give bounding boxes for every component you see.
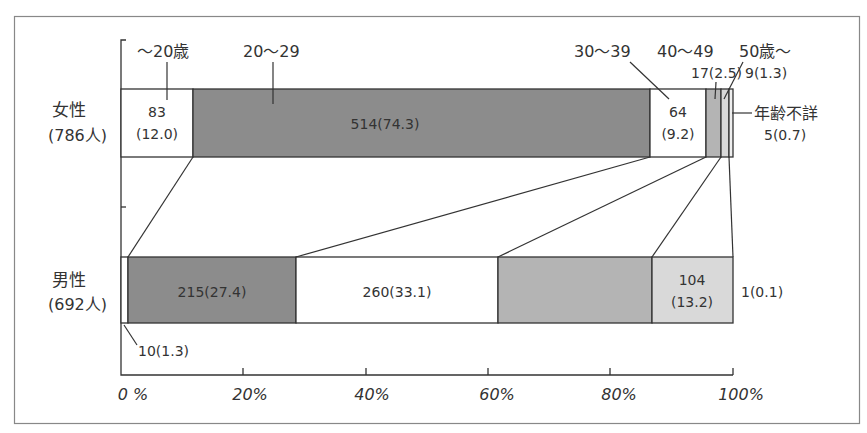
female-40s-value: 17(2.5) <box>691 65 742 81</box>
female-label: 女性 <box>52 100 86 120</box>
seg-label-50plus: 50歳～ <box>739 42 791 61</box>
x-tick-40: 40% <box>354 385 390 404</box>
male-50plus-pct: (13.2) <box>671 294 713 310</box>
female-unknown-value: 5(0.7) <box>764 127 806 143</box>
x-tick-20: 20% <box>232 385 268 404</box>
seg-label-20s: 20～29 <box>243 42 300 61</box>
female-seg-unknown <box>729 89 733 157</box>
female-bar <box>121 89 733 157</box>
male-seg-50plus <box>652 257 733 323</box>
male-seg-under20 <box>121 257 128 323</box>
x-tick-100: 100% <box>718 385 764 404</box>
female-seg-40s <box>706 89 721 157</box>
male-total: (692人) <box>48 295 107 314</box>
seg-label-30s: 30～39 <box>574 42 631 61</box>
x-tick-80: 80% <box>601 385 637 404</box>
male-seg-40s <box>498 257 652 323</box>
female-seg-50plus <box>721 89 729 157</box>
seg-label-40s: 40～49 <box>657 42 714 61</box>
male-unknown-value: 1(0.1) <box>741 284 783 300</box>
female-30s-count: 64 <box>669 104 687 120</box>
female-50plus-value: 9(1.3) <box>745 65 787 81</box>
male-under20-value: 10(1.3) <box>138 343 189 359</box>
female-seg-20s <box>193 89 650 157</box>
x-tick-0: 0 % <box>118 385 148 404</box>
x-tick-60: 60% <box>479 385 515 404</box>
female-total: (786人) <box>48 126 107 145</box>
male-30s-value: 260(33.1) <box>363 284 432 300</box>
male-label: 男性 <box>52 270 86 290</box>
seg-label-unknown: 年齢不詳 <box>754 104 818 123</box>
male-20s-value: 215(27.4) <box>178 284 247 300</box>
male-50plus-count: 104 <box>679 272 706 288</box>
female-30s-pct: (9.2) <box>661 126 694 142</box>
female-seg-under20 <box>121 89 193 157</box>
age-distribution-chart: 女性 (786人) 男性 (692人) ～20歳 20～29 30～39 40～… <box>0 0 867 433</box>
female-under20-pct: (12.0) <box>136 126 178 142</box>
female-seg-30s <box>650 89 706 157</box>
female-20s-value: 514(74.3) <box>351 116 420 132</box>
seg-label-under20: ～20歳 <box>137 42 189 61</box>
female-under20-count: 83 <box>148 104 166 120</box>
